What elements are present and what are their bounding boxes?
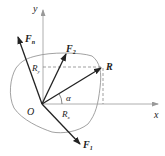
label-fn: Fn [24, 33, 36, 45]
label-f2: F2 [65, 43, 76, 55]
label-rx: Rx [61, 109, 71, 120]
vector-f1 [42, 104, 80, 144]
x-axis-label: x [153, 109, 159, 120]
origin-label: O [27, 106, 34, 117]
label-ry: Ry [31, 63, 41, 74]
label-f1: F1 [82, 139, 93, 151]
angle-arc [59, 94, 62, 104]
angle-alpha-label: α [66, 93, 71, 103]
label-r: R [105, 61, 113, 72]
y-axis-label: y [32, 3, 38, 14]
rigid-body-outline [10, 53, 100, 133]
force-diagram: y x O Fn F2 R F1 Ry Rx α [0, 0, 165, 156]
